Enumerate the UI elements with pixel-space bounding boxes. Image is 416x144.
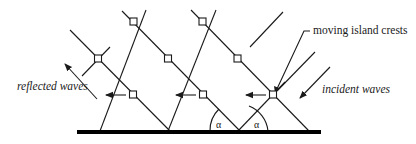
incident-waves-label: incident waves [322, 83, 391, 95]
angle-alpha-right: α [254, 119, 260, 130]
crests-leader-line [276, 31, 310, 91]
reflected-waves-label: reflected waves [17, 80, 88, 93]
incident-wave-crest-lines [82, 10, 315, 131]
shoreline-boundary [77, 130, 321, 134]
wave-reflection-diagram: α α reflected waves incident waves movin… [0, 0, 416, 144]
reflected-wave-crest-lines [70, 10, 309, 131]
angle-alpha-left: α [216, 119, 222, 130]
moving-island-crests-label: moving island crests [313, 24, 408, 37]
angle-markers: α α [210, 106, 268, 131]
